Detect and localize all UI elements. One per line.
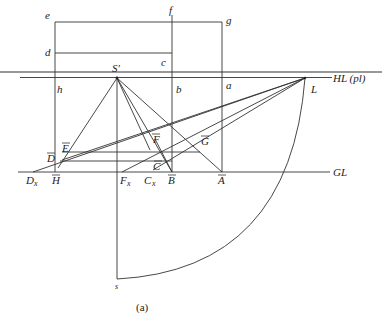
label-e-bar: E [61,142,70,154]
label-g: g [226,14,232,26]
svg-text:F: F [152,133,160,145]
label-a: a [226,79,232,91]
label-s: s [115,282,118,291]
ray-l-to-fx [122,78,305,172]
label-cx: C x [144,174,156,188]
svg-text:E: E [61,142,69,154]
label-a-bar: A [217,174,226,186]
label-f: f [169,4,174,16]
svg-text:G: G [201,135,209,147]
label-s-prime: S′ [112,62,121,74]
svg-text:D: D [46,152,55,164]
label-gl: GL [333,166,347,178]
label-d: d [45,46,51,58]
ray-l-to-e [62,78,305,160]
svg-text:x: x [151,179,156,188]
svg-text:C: C [153,160,161,172]
svg-text:x: x [126,179,131,188]
svg-text:B: B [168,174,175,186]
label-f-bar: F [152,133,160,145]
label-e: e [45,9,50,21]
svg-text:D: D [25,174,34,186]
label-l: L [310,83,317,95]
svg-text:A: A [217,174,225,186]
perspective-construction-diagram: e f g d c h b a S′ HL (pl) L E D F G C H… [0,0,382,323]
svg-text:x: x [33,179,38,188]
label-dx: D x [25,174,38,188]
ray-s-to-f [117,78,150,150]
l-point-dot [304,77,306,79]
label-hl: HL (pl) [332,72,366,85]
label-fx: F x [119,174,131,188]
svg-text:F: F [119,174,127,186]
label-h: h [57,83,63,95]
figure-caption: (a) [136,301,149,314]
ray-s-to-b [117,78,172,172]
svg-text:H: H [51,174,61,186]
label-c: c [161,56,166,68]
svg-text:C: C [144,174,152,186]
label-d-bar: D [46,152,55,164]
label-h-bar: H [51,174,61,186]
label-b-bar: B [168,174,176,186]
station-point-dot [116,77,119,80]
label-c-bar: C [153,160,162,172]
label-g-bar: G [201,135,209,147]
ray-s-to-d [58,78,117,168]
label-b: b [176,83,182,95]
